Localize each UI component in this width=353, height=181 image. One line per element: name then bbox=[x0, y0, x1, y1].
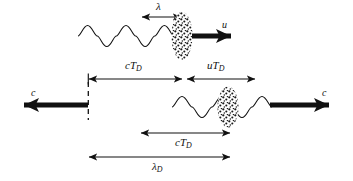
label-u: u bbox=[222, 20, 227, 30]
emitter-blob-bottom bbox=[218, 87, 239, 128]
label-ctd-top: cTD bbox=[125, 60, 142, 73]
label-c-left: c bbox=[31, 88, 35, 98]
ctd-top-measure-arrow bbox=[88, 74, 182, 85]
label-c-right: c bbox=[322, 88, 326, 98]
label-ctd-bottom: cTD bbox=[175, 137, 192, 150]
figure-canvas: λ u cTD uTD c c cTD λD bbox=[0, 0, 353, 181]
label-lambda-d: λD bbox=[152, 161, 162, 174]
label-utd: uTD bbox=[207, 60, 224, 73]
label-lambda: λ bbox=[156, 1, 161, 12]
diagram-svg bbox=[0, 0, 353, 181]
emitter-blob-top bbox=[172, 12, 193, 60]
incident-wave-top bbox=[78, 26, 174, 47]
